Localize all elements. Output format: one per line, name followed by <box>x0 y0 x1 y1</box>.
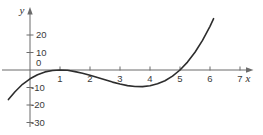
x-tick-label: 7 <box>237 73 242 84</box>
x-tick-label: 6 <box>207 73 212 84</box>
y-tick-label: 0 <box>36 57 41 68</box>
x-tick-label: 4 <box>147 73 152 84</box>
y-tick-label: -10 <box>31 82 45 93</box>
cubic-curve-plot: 123456720100-10-20-30xy <box>0 0 263 135</box>
function-graph-figure: 123456720100-10-20-30xy <box>0 0 263 135</box>
x-tick-label: 3 <box>117 73 122 84</box>
y-tick-label: 20 <box>36 29 47 40</box>
y-tick-label: -20 <box>31 99 45 110</box>
x-axis-label: x <box>245 72 251 84</box>
x-tick-label: 1 <box>57 73 62 84</box>
y-tick-label: -30 <box>31 117 45 128</box>
x-tick-label: 5 <box>177 73 182 84</box>
y-axis-label: y <box>19 4 25 16</box>
y-axis-arrowhead <box>27 7 32 15</box>
